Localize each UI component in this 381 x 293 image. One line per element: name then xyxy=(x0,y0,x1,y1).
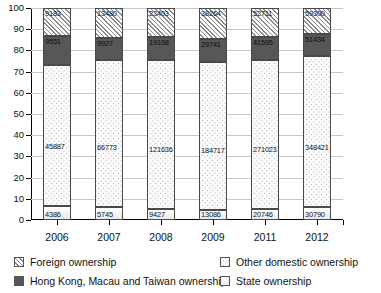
gridline xyxy=(31,72,343,73)
legend-item[interactable]: State ownership xyxy=(220,275,380,287)
bar-2008[interactable]: 23403191081216369427 xyxy=(147,8,175,220)
gridline xyxy=(31,199,343,200)
bar-segment-state[interactable]: 13086 xyxy=(199,210,227,220)
segment-value-label: 9927 xyxy=(97,40,113,48)
legend-swatch-icon xyxy=(220,257,230,267)
y-axis-tick xyxy=(26,220,31,221)
x-axis-tick xyxy=(317,220,318,225)
legend-swatch-icon xyxy=(220,276,230,286)
x-axis-tick-label: 2006 xyxy=(45,232,68,243)
bar-2007[interactable]: 134809927667735745 xyxy=(95,8,123,220)
segment-value-label: 51434 xyxy=(305,36,325,44)
bar-segment-other[interactable]: 348421 xyxy=(303,56,331,207)
bar-segment-other[interactable]: 66773 xyxy=(95,60,123,208)
legend-item[interactable]: Hong Kong, Macau and Taiwan ownership xyxy=(14,275,220,287)
segment-value-label: 9183 xyxy=(45,10,61,18)
segment-value-label: 121636 xyxy=(149,146,173,154)
bar-segment-other[interactable]: 271023 xyxy=(251,60,279,209)
bar-segment-other[interactable]: 45887 xyxy=(43,65,71,206)
segment-value-label: 9551 xyxy=(45,38,61,46)
y-axis-tick-label: 10 xyxy=(13,194,24,204)
bar-segment-foreign[interactable]: 59300 xyxy=(303,8,331,34)
y-axis-tick xyxy=(26,178,31,179)
segment-value-label: 9427 xyxy=(149,211,165,219)
bar-2009[interactable]: 382642974118471713086 xyxy=(199,8,227,220)
gridline xyxy=(31,135,343,136)
segment-value-label: 271023 xyxy=(253,146,277,154)
bar-segment-foreign[interactable]: 13480 xyxy=(95,8,123,38)
bar-segment-hkmt[interactable]: 29741 xyxy=(199,39,227,63)
y-axis-tick xyxy=(26,199,31,200)
plot-area: 0102030405060708090100 91839551458874386… xyxy=(31,8,343,220)
y-axis-tick xyxy=(26,29,31,30)
segment-value-label: 52711 xyxy=(253,10,272,18)
bar-segment-state[interactable]: 30790 xyxy=(303,207,331,220)
gridline xyxy=(31,156,343,157)
bar-segment-foreign[interactable]: 38264 xyxy=(199,8,227,39)
legend-item[interactable]: Other domestic ownership xyxy=(220,256,380,268)
y-axis-tick-label: 30 xyxy=(13,152,24,162)
segment-value-label: 19108 xyxy=(149,39,169,47)
x-axis-tick xyxy=(265,220,266,225)
x-axis-tick xyxy=(213,220,214,225)
gridline xyxy=(31,114,343,115)
segment-value-label: 20746 xyxy=(253,211,273,219)
x-axis-tick-label: 2008 xyxy=(149,232,172,243)
legend-swatch-icon xyxy=(14,276,24,286)
segment-value-label: 45887 xyxy=(45,143,65,151)
y-axis-tick xyxy=(26,72,31,73)
y-axis-tick xyxy=(26,135,31,136)
bar-segment-hkmt[interactable]: 9551 xyxy=(43,36,71,65)
legend-item-label: Foreign ownership xyxy=(30,256,116,268)
y-axis-tick xyxy=(26,8,31,9)
bar-segment-state[interactable]: 9427 xyxy=(147,209,175,220)
y-axis-tick xyxy=(26,156,31,157)
bar-segment-hkmt[interactable]: 19108 xyxy=(147,37,175,60)
x-axis-tick xyxy=(109,220,110,225)
x-axis-tick-label: 2009 xyxy=(201,232,224,243)
y-axis-tick-label: 20 xyxy=(13,173,24,183)
x-axis-tick-label: 2007 xyxy=(97,232,120,243)
bar-segment-foreign[interactable]: 52711 xyxy=(251,8,279,37)
legend-item[interactable]: Foreign ownership xyxy=(14,256,220,268)
bar-segment-other[interactable]: 121636 xyxy=(147,60,175,209)
segment-value-label: 184717 xyxy=(201,147,225,155)
y-axis-tick-label: 100 xyxy=(8,3,24,13)
bar-segment-foreign[interactable]: 23403 xyxy=(147,8,175,37)
bar-segment-state[interactable]: 20746 xyxy=(251,209,279,220)
y-axis-tick-label: 40 xyxy=(13,130,24,140)
x-axis-tick xyxy=(161,220,162,225)
segment-value-label: 13086 xyxy=(201,211,221,219)
y-axis-tick xyxy=(26,114,31,115)
y-axis-tick-label: 50 xyxy=(13,109,24,119)
bar-segment-state[interactable]: 4386 xyxy=(43,206,71,220)
stacked-bar-chart: 0102030405060708090100 91839551458874386… xyxy=(0,0,381,293)
segment-value-label: 23403 xyxy=(149,10,169,18)
bar-segment-hkmt[interactable]: 41595 xyxy=(251,37,279,60)
segment-value-label: 29741 xyxy=(201,41,221,49)
bar-segment-hkmt[interactable]: 9927 xyxy=(95,38,123,60)
bar-segment-other[interactable]: 184717 xyxy=(199,62,227,209)
legend-item-label: State ownership xyxy=(236,275,311,287)
segment-value-label: 38264 xyxy=(201,10,221,18)
x-axis-tick-label: 2011 xyxy=(254,232,277,243)
y-axis-tick-label: 0 xyxy=(19,215,24,225)
chart-legend: Foreign ownershipOther domestic ownershi… xyxy=(14,252,372,290)
gridline xyxy=(31,50,343,51)
legend-item-label: Hong Kong, Macau and Taiwan ownership xyxy=(30,275,227,287)
segment-value-label: 66773 xyxy=(97,144,117,152)
bar-segment-state[interactable]: 5745 xyxy=(95,207,123,220)
gridline xyxy=(31,29,343,30)
gridline xyxy=(31,93,343,94)
segment-value-label: 13480 xyxy=(97,10,117,18)
bar-segment-hkmt[interactable]: 51434 xyxy=(303,34,331,56)
y-axis-tick-label: 70 xyxy=(13,67,24,77)
segment-value-label: 59300 xyxy=(305,10,325,18)
bar-segment-foreign[interactable]: 9183 xyxy=(43,8,71,36)
legend-item-label: Other domestic ownership xyxy=(236,256,358,268)
bar-2012[interactable]: 593005143434842130790 xyxy=(303,8,331,220)
bar-2006[interactable]: 91839551458874386 xyxy=(43,8,71,220)
segment-value-label: 5745 xyxy=(97,211,113,219)
bar-2011[interactable]: 527114159527102320746 xyxy=(251,8,279,220)
segment-value-label: 4386 xyxy=(45,211,61,219)
